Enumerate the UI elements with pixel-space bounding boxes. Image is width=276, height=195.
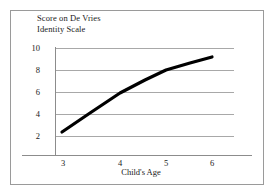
x-axis-title: Child's Age bbox=[96, 167, 186, 177]
chart-figure: Score on De Vries Identity Scale 10 8 6 … bbox=[0, 0, 276, 195]
x-tick-label-6: 6 bbox=[202, 158, 222, 168]
y-tick-label-10: 10 bbox=[22, 43, 40, 53]
x-tick-label-3: 3 bbox=[53, 158, 73, 168]
y-tick-label-4: 4 bbox=[22, 109, 40, 119]
plot-area bbox=[0, 0, 276, 195]
y-tick-label-6: 6 bbox=[22, 87, 40, 97]
y-tick-label-8: 8 bbox=[22, 65, 40, 75]
y-tick-label-2: 2 bbox=[22, 131, 40, 141]
data-line-de-vries-score bbox=[62, 57, 212, 132]
gridlines bbox=[55, 49, 234, 137]
